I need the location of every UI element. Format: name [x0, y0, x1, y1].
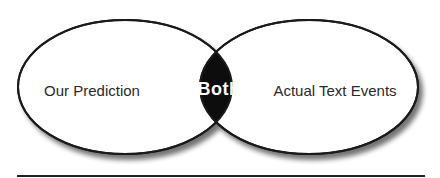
left-set-label: Our Prediction	[44, 82, 140, 99]
intersection-label: Both	[198, 79, 241, 100]
right-set-label: Actual Text Events	[273, 82, 396, 99]
